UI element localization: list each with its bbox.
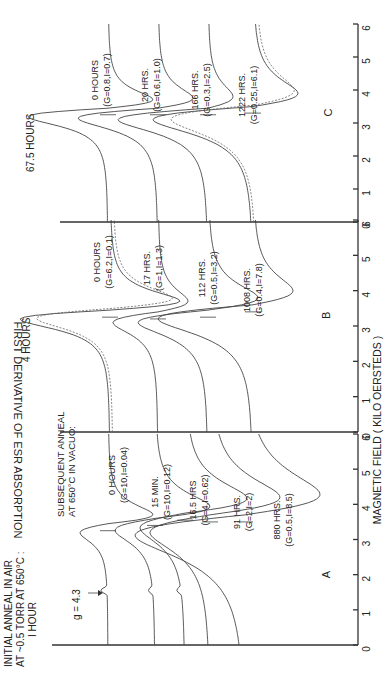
series-label-params: (G=6.2,I=0.1): [104, 235, 114, 289]
series-label-params: (G=0.4,I=7.8): [254, 263, 264, 317]
field-tick-label: 4: [361, 291, 372, 297]
panel-letter: C: [322, 108, 334, 116]
spectrum-trace-dashed: [171, 24, 294, 222]
series-label-params: (G=4,I=0.62): [200, 474, 210, 525]
series-label-name: 880 HRS.: [272, 500, 282, 539]
spectrum-trace: [158, 220, 293, 432]
initial-anneal-line-3: I HOUR: [27, 602, 38, 637]
series-label-name: 112 HRS.: [197, 259, 207, 297]
panels: 0123456A0 HOURS(G=10,I=0.04)15 MIN.(G=10…: [20, 24, 372, 652]
panel-b: 0123456B0 HOURS(G=6.2,I=0.1)17 HRS.(G=1,…: [20, 220, 372, 439]
series-label-params: (G=0.25,I=6.1): [249, 66, 259, 125]
field-tick-label: 1: [361, 190, 372, 196]
series-label-params: (G=10,I=0.04): [119, 447, 129, 503]
spectrum-trace: [28, 24, 153, 222]
subsequent-anneal-note: SUBSEQUENT ANNEAL AT 650°C IN VACUO:: [55, 412, 77, 517]
field-tick-label: 2: [361, 362, 372, 368]
series-label-params: (G=0.6,I=1.0): [152, 58, 162, 112]
initial-anneal-line-2: AT ~0.5 TORR AT 650°C :: [15, 552, 26, 667]
initial-anneal-line-1: INITIAL ANNEAL IN AIR: [3, 560, 14, 667]
series-label-name: 1008 HRS.: [242, 268, 252, 312]
esr-figure: FIRST DERIVATIVE OF ESR ABSORPTION MAGNE…: [0, 0, 386, 677]
subsequent-anneal-line-1: SUBSEQUENT ANNEAL: [55, 412, 66, 517]
series-label-name: 91 HRS.: [232, 495, 242, 529]
field-tick-label: 2: [361, 157, 372, 163]
series-label-params: (G=0.5,I=8.5): [284, 493, 294, 547]
panel-a: 0123456A0 HOURS(G=10,I=0.04)15 MIN.(G=10…: [52, 434, 372, 652]
series-label-name: 16.5 HRS: [188, 480, 198, 519]
panel-letter: A: [320, 570, 332, 578]
series-label-name: 17 HRS.: [142, 251, 152, 285]
panel-c: 0123456C0 HOURS(G=0.8,I=0.7)20 HRS.(G=0.…: [28, 24, 372, 229]
field-tick-label: 1: [361, 397, 372, 403]
series-label-params: (G=10,I=0.12): [162, 464, 172, 520]
spectrum-trace: [78, 24, 193, 222]
field-tick-label: 2: [361, 575, 372, 581]
field-tick-label: 6: [361, 25, 372, 31]
series-label-name: 0 HOURS: [90, 60, 100, 100]
subsequent-anneal-line-2: AT 650°C IN VACUO:: [66, 426, 77, 517]
spectrum-trace: [118, 24, 233, 222]
field-tick-label: 0: [361, 433, 372, 439]
series-label-params: (G=1,I=1.3): [154, 245, 164, 291]
series-label-name: 15 MIN.: [150, 476, 160, 508]
series-label-params: (G=0.3,I=2.5): [202, 63, 212, 117]
field-tick-label: 5: [361, 256, 372, 262]
spectrum-trace: [153, 24, 298, 222]
series-label-name: 1222 HRS.: [237, 73, 247, 117]
spectrum-trace: [140, 434, 247, 645]
field-tick-label: 4: [361, 91, 372, 97]
series-label-name: 0 HOURS: [107, 455, 117, 495]
field-tick-label: 5: [361, 58, 372, 64]
field-tick-label: 3: [361, 540, 372, 546]
series-label-name: 0 HOURS: [92, 242, 102, 282]
field-tick-label: 0: [361, 223, 372, 229]
field-tick-label: 4: [361, 505, 372, 511]
field-tick-label: 1: [361, 611, 372, 617]
g-marker-label: g = 4.3: [71, 589, 82, 620]
field-tick-label: 0: [361, 646, 372, 652]
x-axis-label: MAGNETIC FIELD ( KILO OERSTEDS ): [371, 336, 383, 524]
series-label-name: 20 HRS.: [140, 68, 150, 102]
field-tick-label: 3: [361, 124, 372, 130]
series-label-name: 166 HRS.: [190, 70, 200, 109]
initial-anneal-note: INITIAL ANNEAL IN AIR AT ~0.5 TORR AT 65…: [3, 552, 38, 667]
panel-c-title: 67.5 HOURS: [25, 113, 36, 172]
field-tick-label: 5: [361, 470, 372, 476]
panel-letter: B: [320, 312, 332, 319]
series-label-params: (G=0.8,I=0.7): [102, 53, 112, 107]
field-tick-label: 3: [361, 327, 372, 333]
series-label-params: (G=2,I=2): [244, 493, 254, 532]
g-marker: g = 4.3: [71, 589, 103, 620]
g-marker-arrowhead-icon: [98, 590, 103, 596]
series-label-params: (G=0.5,I=3.2): [209, 251, 219, 305]
